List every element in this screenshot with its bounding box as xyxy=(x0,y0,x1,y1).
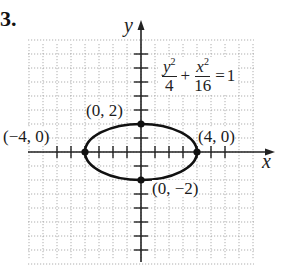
eq-term2-exp: 2 xyxy=(204,56,209,67)
fraction-y2-over-4: y2 4 xyxy=(162,57,177,94)
eq-term2-var: x xyxy=(196,57,204,76)
point-label-top-vertex: (0, 2) xyxy=(86,102,123,119)
vertex-point xyxy=(137,176,144,183)
eq-term1-var: y xyxy=(163,57,171,76)
vertex-point xyxy=(137,120,144,127)
eq-rhs: 1 xyxy=(227,66,236,86)
fraction-x2-over-16: x2 16 xyxy=(194,57,211,94)
eq-term1-exp: 2 xyxy=(171,56,176,67)
point-label-left-vertex: (−4, 0) xyxy=(3,128,49,145)
vertex-point xyxy=(193,148,200,155)
point-label-bottom-vertex: (0, −2) xyxy=(152,180,198,197)
eq-term2-den: 16 xyxy=(194,77,211,95)
x-axis-label: x xyxy=(262,150,271,173)
y-axis-arrow-icon xyxy=(138,20,145,30)
point-label-right-vertex: (4, 0) xyxy=(198,128,235,145)
eq-plus: + xyxy=(181,66,191,86)
eq-equals: = xyxy=(215,66,225,86)
vertex-point xyxy=(81,148,88,155)
y-axis-label: y xyxy=(124,14,133,37)
eq-term1-den: 4 xyxy=(165,77,174,95)
equation-label: y2 4 + x2 16 = 1 xyxy=(158,57,237,94)
